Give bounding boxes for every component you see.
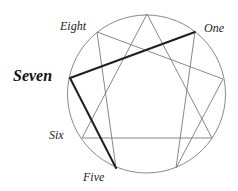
label-one: One [204, 21, 225, 35]
enneagram-circle [68, 15, 226, 173]
label-seven: Seven [13, 67, 52, 84]
enneagram-diagram: Eight One Seven Six Five [0, 0, 238, 191]
label-eight: Eight [59, 19, 87, 33]
label-six: Six [49, 128, 64, 142]
seven-to-five-line [70, 78, 116, 168]
seven-to-one-line [70, 32, 195, 78]
label-five: Five [82, 170, 105, 184]
